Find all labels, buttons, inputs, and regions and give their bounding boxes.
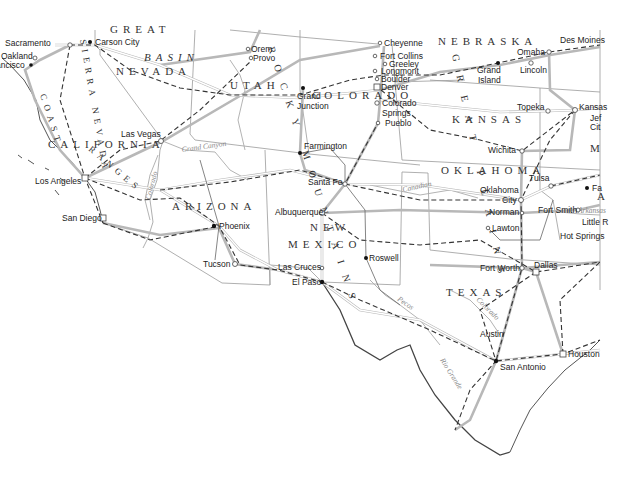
city-label-lincoln: Lincoln: [520, 65, 547, 75]
river-label-canadian: Canadian: [402, 179, 433, 194]
city-marker-wichita: [520, 149, 524, 153]
city-label-las-vegas: Las Vegas: [121, 129, 161, 139]
city-marker-norman: [520, 211, 524, 215]
city-marker-boulder: [375, 77, 379, 81]
city-marker-oakland: [33, 56, 37, 60]
city-marker-los-angeles: [82, 175, 88, 181]
city-label-fort-worth: Fort Worth: [480, 263, 520, 273]
city-label-roswell: Roswell: [369, 253, 399, 263]
city-label-grand-junction-1: Grand: [297, 91, 321, 101]
map-canvas: NEVADA UTAH COLORADO NEBRASKA KANSAS CAL…: [0, 0, 637, 483]
city-label-pueblo: Pueblo: [385, 118, 412, 128]
city-marker-san-francisco: [29, 63, 33, 67]
city-marker-houston: [560, 351, 566, 357]
city-label-san-diego: San Diego: [62, 213, 102, 223]
city-marker-cheyenne: [378, 41, 382, 45]
city-label-fayetteville: Fa: [592, 183, 602, 193]
city-label-san-francisco: Francisco: [0, 60, 25, 70]
city-marker-topeka: [546, 109, 550, 113]
city-label-fort-smith: Fort Smith: [538, 205, 577, 215]
city-marker-tulsa: [549, 184, 553, 188]
city-marker-grand-junction: [301, 86, 305, 90]
river-label-arkansas: Arkansas: [577, 206, 606, 215]
river-label-rio-grande: Rio Grande: [438, 355, 465, 391]
state-label-arizona: ARIZONA: [172, 200, 257, 212]
city-label-san-antonio: San Antonio: [500, 362, 546, 372]
state-label-texas: TEXAS: [446, 286, 506, 298]
city-label-oklahoma-city-2: City: [502, 195, 517, 205]
city-marker-fort-worth: [520, 266, 524, 270]
city-label-tulsa: Tulsa: [529, 173, 550, 183]
city-label-colorado-springs-2: Springs: [382, 108, 411, 118]
city-label-des-moines: Des Moines: [560, 35, 605, 45]
city-label-jefferson-2: Cit: [590, 122, 601, 132]
city-marker-fort-collins: [373, 54, 377, 58]
city-label-dallas: Dallas: [534, 260, 558, 270]
city-marker-roswell: [364, 256, 368, 260]
city-label-santa-fe: Santa Fe: [308, 177, 343, 187]
city-marker-las-vegas: [159, 139, 164, 144]
city-marker-farmington: [298, 151, 302, 155]
city-marker-carson-city: [88, 40, 92, 44]
city-label-grand-island-1: Grand: [477, 65, 501, 75]
city-marker-longmont: [373, 69, 377, 73]
city-label-omaha: Omaha: [517, 47, 545, 57]
city-label-lawton: Lawton: [492, 223, 520, 233]
city-label-provo: Provo: [253, 53, 275, 63]
city-label-sacramento: Sacramento: [5, 38, 51, 48]
state-label-nebraska: NEBRASKA: [438, 35, 537, 47]
city-marker-pueblo: [376, 121, 380, 125]
city-marker-kansas-city: [573, 108, 578, 113]
city-marker-phoenix: [212, 224, 216, 228]
city-marker-colorado-springs: [375, 101, 379, 105]
city-marker-sacramento: [68, 43, 72, 47]
city-label-colorado-springs-1: Colorado: [382, 98, 417, 108]
region-label-basin: BASIN: [144, 51, 199, 63]
city-marker-orem: [246, 47, 250, 51]
city-label-grand-junction-2: Junction: [297, 101, 329, 111]
city-label-houston: Houston: [568, 349, 600, 359]
city-label-wichita: Wichita: [488, 145, 516, 155]
city-marker-lawton: [486, 226, 490, 230]
city-marker-denver: [374, 84, 380, 90]
city-label-carson-city: Carson City: [95, 37, 140, 47]
city-marker-san-antonio: [494, 359, 498, 363]
region-label-great: GREAT: [110, 23, 170, 35]
city-label-hot-springs: Hot Springs: [560, 231, 604, 241]
city-label-los-angeles: Los Angeles: [35, 176, 81, 186]
city-label-farmington: Farmington: [304, 141, 347, 151]
city-label-grand-island-2: Island: [478, 75, 501, 85]
city-label-albuquerque: Albuquerque: [275, 207, 323, 217]
city-label-austin: Austin: [480, 329, 504, 339]
city-marker-omaha: [547, 50, 551, 54]
city-label-tucson: Tucson: [203, 259, 231, 269]
river-label-colorado-az: Colorado: [143, 170, 159, 200]
city-label-denver: Denver: [381, 82, 409, 92]
city-label-oklahoma-city-1: Oklahoma: [480, 185, 519, 195]
city-label-las-cruces: Las Cruces: [278, 262, 321, 272]
city-label-topeka: Topeka: [517, 102, 545, 112]
state-label-nevada: NEVADA: [116, 65, 191, 77]
city-label-el-paso: El Paso: [292, 277, 322, 287]
state-label-missouri-partial: M: [590, 142, 605, 154]
city-label-kansas-city: Kansas: [579, 102, 607, 112]
city-marker-fayetteville: [585, 186, 589, 190]
city-label-norman: Norman: [489, 207, 520, 217]
city-marker-santa-fe: [343, 182, 347, 186]
state-label-utah: UTAH: [230, 79, 280, 91]
city-marker-oklahoma-city: [519, 198, 524, 203]
state-label-mexico: MEXICO: [288, 238, 361, 250]
city-label-cheyenne: Cheyenne: [384, 38, 423, 48]
city-label-phoenix: Phoenix: [219, 221, 250, 231]
region-label-ranges: RANGES: [87, 144, 144, 194]
city-marker-tucson: [233, 262, 238, 267]
city-label-little-rock: Little R: [582, 217, 608, 227]
